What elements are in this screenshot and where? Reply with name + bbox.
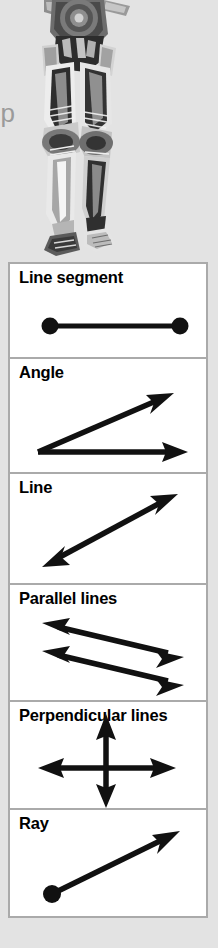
- table-row: Angle: [10, 359, 206, 474]
- table-row: Line: [10, 474, 206, 585]
- table-row: Ray: [10, 810, 206, 916]
- table-row: Parallel lines: [10, 585, 206, 702]
- table-row: Perpendicular lines: [10, 702, 206, 810]
- line-diagram: [10, 474, 206, 583]
- ray-diagram: [10, 810, 206, 916]
- table-row: Line segment: [10, 264, 206, 359]
- parallel-lines-diagram: [10, 585, 206, 700]
- page-root: up Line segment Angle: [0, 0, 218, 948]
- clipped-caption-text: up: [0, 100, 15, 126]
- perpendicular-lines-diagram: [10, 702, 206, 808]
- angle-diagram: [10, 359, 206, 472]
- droid-illustration: [0, 0, 218, 262]
- line-segment-diagram: [10, 264, 206, 357]
- geometry-terms-table: Line segment Angle: [8, 262, 208, 918]
